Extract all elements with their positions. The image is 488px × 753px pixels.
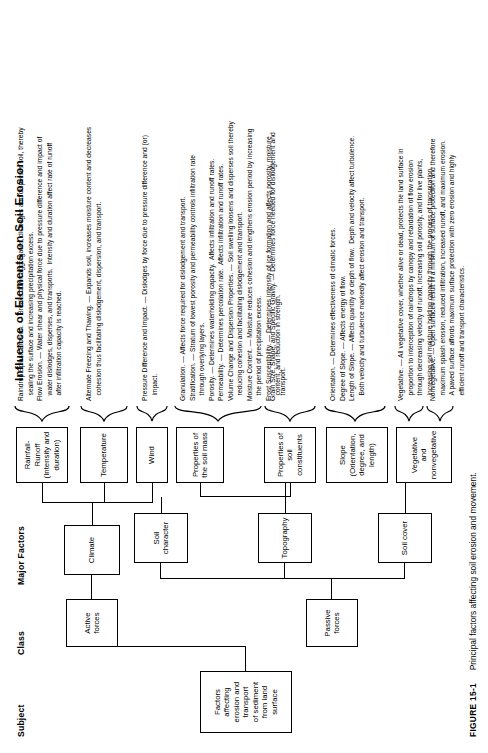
connector-subject-spine [245, 647, 246, 671]
element-box-vegetative-nonvegetative: Vegetative and nonvegetative [396, 427, 452, 483]
influence-text-nonvegetative: Nonvegetative. — Open surfaces result in… [428, 9, 466, 401]
connector-climate-spine [42, 502, 152, 503]
influence-text-rainfall-runoff: Raindrop Splash Erosion. — Breaks down a… [16, 9, 64, 401]
connector-climate-to-wind [152, 483, 153, 503]
brace-rainfall-runoff [14, 405, 70, 423]
element-box-properties-soil-mass: Properties of the soil mass [176, 427, 224, 483]
connector-soil-character-to-constituents [290, 483, 291, 497]
influence-text-temperature: Alternate Freezing and Thawing. — Expand… [84, 9, 103, 401]
element-box-properties-soil-constituents: Properties of soil constituents [264, 427, 316, 483]
influence-text-soil-constituents: Grain Size, Shape, and Specific Gravity.… [268, 9, 287, 401]
influence-text-wind: Pressure Difference and Impact. — Dislod… [140, 9, 159, 401]
connector-climate-to-temperature [104, 483, 105, 503]
figure-page: Subject Class Major Factors Elements Inf… [0, 0, 488, 753]
column-header-subject: Subject [16, 705, 26, 737]
connector-climate-trunk [92, 503, 93, 525]
connector-active-to-climate [91, 575, 92, 599]
connector-passive-trunk [331, 579, 332, 599]
rotated-canvas: Subject Class Major Factors Elements Inf… [0, 0, 488, 753]
connector-passive-spine [160, 578, 404, 579]
connector-soil-character-to-mass [200, 483, 201, 497]
major-factor-box-climate: Climate [64, 525, 120, 575]
column-header-major-factors: Major Factors [16, 526, 26, 585]
major-factor-box-topography: Topography [258, 513, 312, 563]
major-factor-box-soil-cover: Soil cover [378, 513, 432, 563]
class-box-passive-forces: Passive forces [306, 599, 358, 647]
influence-text-soil-mass: Granulation. — Affects force required fo… [178, 9, 283, 401]
connector-passive-to-topography [284, 563, 285, 579]
brace-slope [324, 405, 386, 423]
connector-topography-to-slope [285, 483, 286, 513]
brace-properties-soil-constituents [264, 405, 316, 423]
subject-box: Factors affecting erosion and transport … [200, 671, 292, 733]
brace-vegetative [394, 405, 424, 423]
column-header-class: Class [16, 631, 26, 655]
brace-nonvegetative [426, 405, 454, 423]
connector-soil-character-trunk [161, 497, 162, 513]
element-box-slope: Slope (Orientation, degree, and length) [326, 427, 388, 483]
major-factor-box-soil-character: Soil character [134, 513, 188, 563]
connector-passive-to-soil-character [160, 563, 161, 579]
element-box-rainfall-runoff: Rainfall-Runoff (Intensity and duration) [16, 427, 68, 483]
class-box-active-forces: Active forces [66, 599, 118, 647]
connector-soil-character-spine [200, 496, 290, 497]
figure-caption-number: FIGURE 15-1 [468, 683, 478, 737]
element-box-temperature: Temperature [80, 427, 128, 483]
brace-wind [136, 405, 168, 423]
figure-caption: FIGURE 15-1 Principal factors affecting … [468, 472, 478, 737]
connector-climate-to-rainfall [42, 483, 43, 503]
element-box-wind: Wind [136, 427, 168, 483]
connector-soil-cover-to-vegetative [405, 483, 406, 513]
brace-properties-soil-mass [174, 405, 262, 423]
influence-text-slope: Orientation. — Determines effectiveness … [328, 9, 366, 401]
connector-passive-to-soil-cover [404, 563, 405, 579]
brace-temperature [80, 405, 128, 423]
figure-caption-text: Principal factors affecting soil erosion… [468, 472, 478, 670]
